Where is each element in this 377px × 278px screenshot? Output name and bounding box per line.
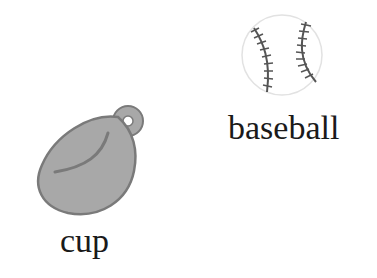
item-label: baseball: [228, 111, 339, 145]
baseball-icon: [237, 10, 327, 100]
baseball-glove-icon: [30, 95, 160, 220]
item-label: cup: [60, 224, 109, 258]
